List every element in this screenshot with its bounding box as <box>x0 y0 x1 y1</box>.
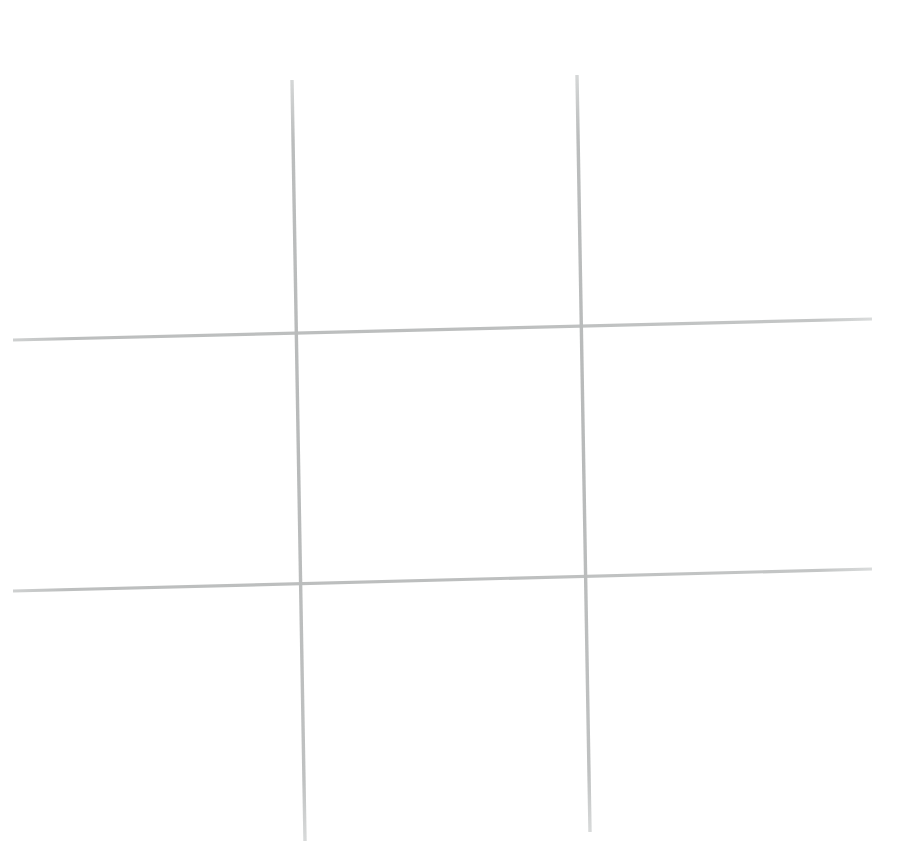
canvas-background <box>0 0 899 852</box>
drawing-canvas[interactable] <box>0 0 899 852</box>
tic-tac-toe-grid <box>0 0 899 852</box>
